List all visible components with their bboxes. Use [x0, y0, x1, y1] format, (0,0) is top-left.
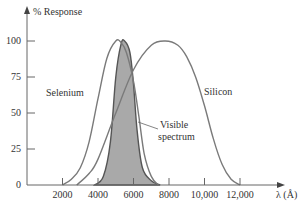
x-axis-arrow-icon [277, 182, 285, 188]
spectral-response-chart: 100 75 50 25 0 2000 4000 6000 8000 10,00… [0, 0, 305, 206]
silicon-curve [77, 41, 240, 185]
y-tick-75: 75 [11, 71, 21, 82]
y-axis-label: % Response [33, 6, 83, 17]
x-tick-4000: 4000 [88, 189, 108, 200]
x-tick-2000: 2000 [53, 189, 73, 200]
y-tick-25: 25 [11, 143, 21, 154]
y-tick-100: 100 [6, 35, 21, 46]
y-tick-labels: 100 75 50 25 0 [6, 35, 21, 190]
y-ticks [27, 41, 35, 149]
x-tick-10000: 10,000 [191, 189, 219, 200]
x-tick-8000: 8000 [159, 189, 179, 200]
visible-spectrum-area [95, 40, 161, 185]
selenium-label: Selenium [46, 87, 84, 98]
visible-spectrum-label-line2: spectrum [158, 131, 195, 142]
silicon-label: Silicon [204, 86, 232, 97]
x-axis-label: λ (Å) [276, 189, 297, 201]
y-tick-0: 0 [16, 179, 21, 190]
visible-spectrum-label-line1: Visible [160, 119, 189, 130]
y-tick-50: 50 [11, 107, 21, 118]
x-tick-12000: 12,000 [226, 189, 254, 200]
x-tick-6000: 6000 [124, 189, 144, 200]
x-tick-labels: 2000 4000 6000 8000 10,000 12,000 [53, 189, 254, 200]
y-axis-arrow-icon [24, 6, 30, 14]
